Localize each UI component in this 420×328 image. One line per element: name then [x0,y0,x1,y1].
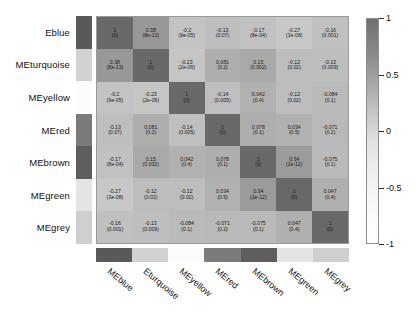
heatmap-cell: -0.13(0.07) [205,17,241,49]
cell-pvalue: (0) [112,33,118,38]
cell-pvalue: (0) [255,162,261,167]
heatmap-cell: 0.042(0.4) [240,82,276,114]
heatmap-cell: -0.2(9e-05) [97,82,133,114]
heatmap-cell: -0.13(0.009) [133,211,169,243]
cell-pvalue: (2e-06) [178,65,195,70]
cell-pvalue: (2e-12) [286,162,303,167]
column-label-axis: MEblue Eturquoise MEyellow MEred MEbrown… [96,264,349,326]
heatmap-cell: 0.15(0.002) [240,49,276,81]
cell-pvalue: (0.005) [178,130,194,135]
column-module-color-strip [96,248,349,262]
heatmap-cell: -0.27(3e-08) [97,178,133,210]
colorbar-tick [379,75,384,76]
cell-pvalue: (0.4) [289,227,300,232]
cell-pvalue: (8e-13) [142,33,159,38]
cell-pvalue: (0) [291,195,297,200]
heatmap-cell: 0.081(0.2) [205,49,241,81]
cell-pvalue: (8e-04) [250,33,267,38]
module-color-swatch [313,248,349,262]
heatmap-cell: -0.12(0.02) [276,82,312,114]
heatmap-cell: -0.16(0.001) [312,17,348,49]
cell-pvalue: (0.2) [217,65,228,70]
module-color-swatch [76,16,92,49]
heatmap-cell: 1(0) [205,114,241,146]
cell-pvalue: (3e-08) [107,195,124,200]
module-color-swatch [204,248,240,262]
heatmap-cell: -0.071(0.2) [205,211,241,243]
cell-pvalue: (0) [219,130,225,135]
module-color-swatch [76,49,92,82]
heatmap-cell: 1(0) [276,178,312,210]
column-label-slot: MEyellow [168,264,204,326]
heatmap-cell: 0.38(8e-13) [133,17,169,49]
cell-pvalue: (0.1) [217,162,228,167]
column-label-slot: MEblue [96,264,132,326]
row-label: MEturquoise [0,49,74,82]
heatmap-cell: 0.047(0.4) [312,178,348,210]
heatmap-cell: -0.12(0.02) [169,178,205,210]
heatmap-cell: -0.12(0.02) [276,49,312,81]
cell-pvalue: (3e-08) [286,33,303,38]
module-color-swatch [132,248,168,262]
heatmap-matrix-container: 1(0)0.38(8e-13)-0.2(9e-05)-0.13(0.07)-0.… [96,16,349,244]
column-label-slot: MEred [204,264,240,326]
heatmap-cell: -0.071(0.2) [312,114,348,146]
heatmap-cell: -0.17(8e-04) [240,17,276,49]
module-color-swatch [96,248,132,262]
heatmap-matrix: 1(0)0.38(8e-13)-0.2(9e-05)-0.13(0.07)-0.… [97,17,348,243]
correlation-heatmap-figure: Eblue MEturquoise MEyellow MEred MEbrown… [0,0,420,328]
cell-pvalue: (8e-04) [107,162,124,167]
cell-pvalue: (0) [327,227,333,232]
heatmap-cell: 0.034(0.5) [205,178,241,210]
cell-pvalue: (0.001) [322,33,338,38]
row-label: MEyellow [0,81,74,114]
cell-pvalue: (9e-05) [107,98,124,103]
heatmap-cell: -0.084(0.1) [312,82,348,114]
heatmap-cell: 1(0) [169,82,205,114]
heatmap-cell: -0.16(0.001) [97,211,133,243]
cell-pvalue: (0.2) [217,227,228,232]
column-label-slot: MEgrey [313,264,349,326]
heatmap-cell: 0.34(2e-12) [240,178,276,210]
heatmap-cell: 0.034(0.5) [276,114,312,146]
colorbar-legend: 10.50-0.5-1 [366,18,418,244]
heatmap-cell: -0.075(0.1) [312,146,348,178]
heatmap-cell: -0.23(2e-06) [169,49,205,81]
colorbar-tick [379,188,384,189]
cell-pvalue: (0.07) [108,130,122,135]
cell-pvalue: (0.4) [253,98,264,103]
heatmap-cell: -0.13(0.009) [312,49,348,81]
module-color-swatch [76,114,92,147]
row-label: MEbrown [0,146,74,179]
row-label-axis: Eblue MEturquoise MEyellow MEred MEbrown… [0,16,74,244]
module-color-swatch [76,211,92,244]
colorbar-tick-label: -1 [386,239,394,249]
cell-pvalue: (0.02) [180,195,194,200]
heatmap-cell: -0.13(0.07) [97,114,133,146]
cell-pvalue: (0.5) [289,130,300,135]
cell-pvalue: (2e-06) [142,98,159,103]
cell-pvalue: (0.4) [181,162,192,167]
colorbar-tick [379,131,384,132]
cell-pvalue: (0.02) [287,65,301,70]
cell-pvalue: (0.2) [325,130,336,135]
column-label: MEgrey [322,266,352,294]
heatmap-cell: -0.084(0.1) [169,211,205,243]
module-color-swatch [277,248,313,262]
cell-pvalue: (0.07) [216,33,230,38]
cell-pvalue: (0.009) [322,65,338,70]
cell-pvalue: (0.4) [325,195,336,200]
row-label: Eblue [0,16,74,49]
cell-pvalue: (9e-05) [178,33,195,38]
column-label-slot: MEbrown [241,264,277,326]
heatmap-cell: -0.14(0.005) [205,82,241,114]
column-label: MEblue [106,266,136,293]
cell-pvalue: (0.2) [145,130,156,135]
cell-pvalue: (8e-13) [107,65,124,70]
heatmap-cell: 0.38(8e-13) [97,49,133,81]
heatmap-cell: -0.2(9e-05) [169,17,205,49]
heatmap-cell: -0.17(8e-04) [97,146,133,178]
heatmap-cell: 1(0) [133,49,169,81]
heatmap-cell: -0.14(0.005) [169,114,205,146]
cell-pvalue: (0.02) [144,195,158,200]
